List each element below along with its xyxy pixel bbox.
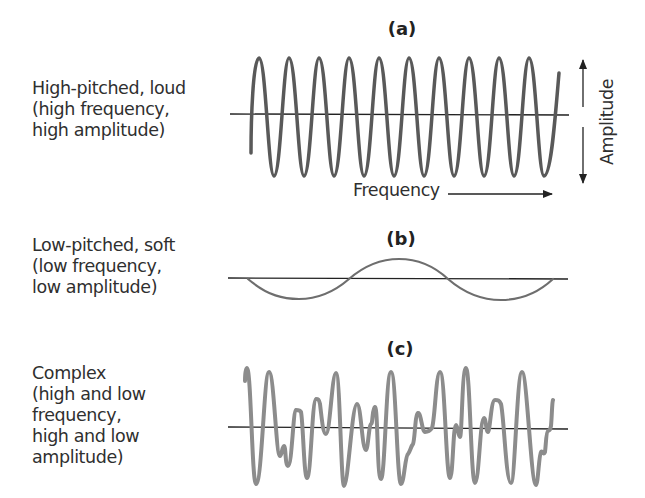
waveform-figure [0, 0, 645, 498]
panel-b-graph [228, 259, 568, 300]
panel-b-baseline [228, 278, 568, 279]
panel-c-graph [228, 368, 568, 486]
panel-a-graph [230, 58, 583, 194]
panel-a-waveform [251, 58, 559, 176]
